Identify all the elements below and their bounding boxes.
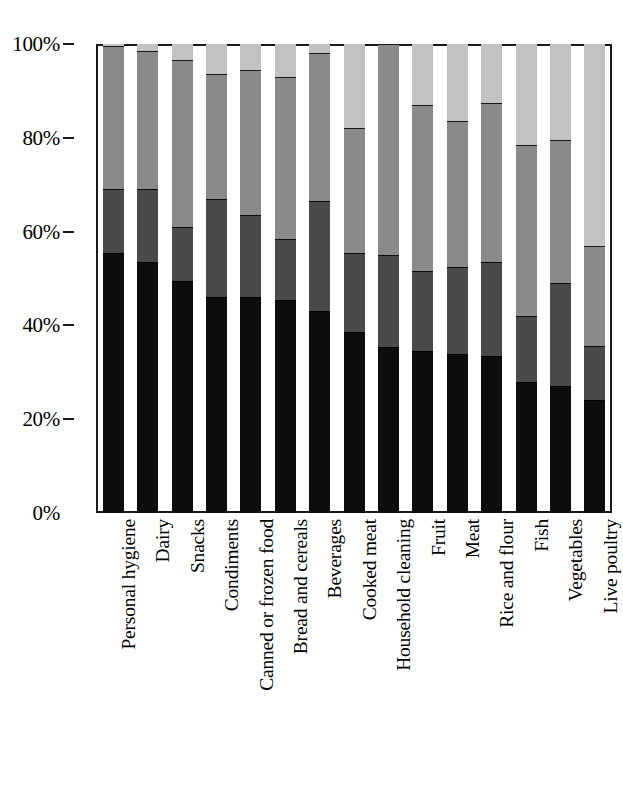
bar-bread-and-cereals xyxy=(275,44,296,513)
y-axis-tick-label: 100% xyxy=(12,32,60,57)
bar-canned-or-frozen-food xyxy=(240,44,261,513)
x-axis-label: Vegetables xyxy=(566,519,586,601)
bar-segment-series-4 xyxy=(344,44,365,128)
bar-segment-series-4 xyxy=(412,44,433,105)
bar-segment-series-4 xyxy=(584,44,605,246)
bar-segment-series-3 xyxy=(550,140,571,283)
bar-segment-series-1 xyxy=(172,281,193,513)
bar-rice-and-flour xyxy=(481,44,502,513)
bar-segment-series-1 xyxy=(275,300,296,513)
x-axis-label: Live poultry xyxy=(601,519,621,614)
bar-segment-series-1 xyxy=(240,297,261,513)
bar-segment-series-3 xyxy=(172,60,193,226)
x-axis-label: Dairy xyxy=(153,519,173,562)
bar-segment-series-1 xyxy=(103,253,124,513)
bar-live-poultry xyxy=(584,44,605,513)
y-axis-tick-label: 20% xyxy=(22,407,60,432)
bar-segment-series-4 xyxy=(309,44,330,53)
bar-segment-series-1 xyxy=(584,400,605,513)
bar-segment-series-3 xyxy=(412,105,433,271)
x-axis-label: Rice and flour xyxy=(497,519,517,628)
bar-segment-series-2 xyxy=(550,283,571,386)
bar-segment-series-3 xyxy=(447,121,468,266)
bar-segment-series-4 xyxy=(275,44,296,77)
bar-segment-series-2 xyxy=(584,346,605,400)
y-axis-tick-mark xyxy=(63,137,74,139)
y-axis-tick-label: 80% xyxy=(22,125,60,150)
bar-segment-series-1 xyxy=(481,356,502,513)
bar-fruit xyxy=(412,44,433,513)
bar-segment-series-2 xyxy=(481,262,502,356)
bar-meat xyxy=(447,44,468,513)
bar-personal-hygiene xyxy=(103,44,124,513)
y-axis-tick-mark xyxy=(63,43,74,45)
bar-segment-series-2 xyxy=(103,189,124,252)
bar-segment-series-1 xyxy=(378,347,399,513)
bar-fish xyxy=(516,44,537,513)
y-axis-tick-label: 0% xyxy=(33,501,60,526)
x-axis-label: Canned or frozen food xyxy=(257,519,277,691)
bar-segment-series-3 xyxy=(344,128,365,252)
bar-segment-series-1 xyxy=(516,382,537,513)
bar-segment-series-4 xyxy=(206,44,227,74)
bar-segment-series-3 xyxy=(378,44,399,255)
y-axis-tick-mark xyxy=(63,231,74,233)
bar-segment-series-2 xyxy=(344,253,365,333)
bar-segment-series-4 xyxy=(550,44,571,140)
bar-segment-series-4 xyxy=(516,44,537,145)
bar-segment-series-3 xyxy=(516,145,537,316)
bar-segment-series-3 xyxy=(275,77,296,239)
bar-segment-series-2 xyxy=(412,271,433,351)
bar-segment-series-1 xyxy=(309,311,330,513)
bar-segment-series-3 xyxy=(137,51,158,189)
x-axis-label: Snacks xyxy=(188,519,208,573)
bar-segment-series-2 xyxy=(137,189,158,262)
x-axis-label: Meat xyxy=(463,519,483,558)
bar-segment-series-2 xyxy=(275,239,296,300)
bar-segment-series-1 xyxy=(447,354,468,513)
bar-cooked-meat xyxy=(344,44,365,513)
bar-segment-series-3 xyxy=(206,74,227,198)
bars-layer xyxy=(96,44,612,513)
x-axis-label: Fish xyxy=(532,519,552,552)
bar-segment-series-4 xyxy=(481,44,502,103)
x-axis-labels: Personal hygieneDairySnacksCondimentsCan… xyxy=(96,513,612,773)
bar-beverages xyxy=(309,44,330,513)
bar-segment-series-3 xyxy=(584,246,605,347)
x-axis-label: Cooked meat xyxy=(360,519,380,620)
bar-vegetables xyxy=(550,44,571,513)
x-axis-label: Fruit xyxy=(429,519,449,556)
bar-segment-series-2 xyxy=(240,215,261,297)
bar-segment-series-2 xyxy=(378,255,399,346)
bar-segment-series-1 xyxy=(137,262,158,513)
bar-segment-series-3 xyxy=(309,53,330,201)
bar-segment-series-3 xyxy=(103,46,124,189)
bar-segment-series-1 xyxy=(412,351,433,513)
bar-dairy xyxy=(137,44,158,513)
bar-segment-series-2 xyxy=(516,316,537,382)
y-axis: 0%20%40%60%80%100% xyxy=(0,0,96,560)
bar-segment-series-2 xyxy=(172,227,193,281)
stacked-bar-chart: 0%20%40%60%80%100% Personal hygieneDairy… xyxy=(0,0,623,791)
bar-segment-series-1 xyxy=(550,386,571,513)
bar-segment-series-4 xyxy=(240,44,261,70)
bar-segment-series-4 xyxy=(137,44,158,51)
y-axis-tick-label: 60% xyxy=(22,219,60,244)
bar-household-cleaning xyxy=(378,44,399,513)
bar-segment-series-4 xyxy=(447,44,468,121)
bar-segment-series-2 xyxy=(206,199,227,297)
y-axis-tick-label: 40% xyxy=(22,313,60,338)
bar-segment-series-3 xyxy=(481,103,502,262)
y-axis-tick-mark xyxy=(63,324,74,326)
bar-condiments xyxy=(206,44,227,513)
x-axis-label: Condiments xyxy=(222,519,242,611)
bar-segment-series-1 xyxy=(344,332,365,513)
x-axis-label: Personal hygiene xyxy=(119,519,139,650)
x-axis-label: Beverages xyxy=(325,519,345,598)
bar-segment-series-1 xyxy=(206,297,227,513)
x-axis-label: Household cleaning xyxy=(394,519,414,671)
bar-snacks xyxy=(172,44,193,513)
bar-segment-series-3 xyxy=(240,70,261,215)
bar-segment-series-2 xyxy=(309,201,330,311)
bar-segment-series-2 xyxy=(447,267,468,354)
